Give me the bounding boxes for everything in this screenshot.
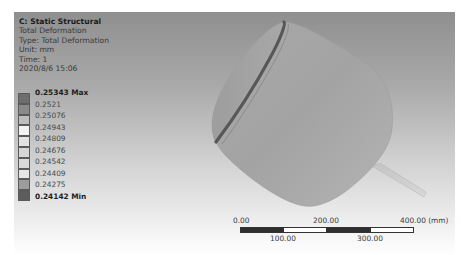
scale-tick-200: 200.00 bbox=[313, 216, 339, 225]
scale-tick-0: 0.00 bbox=[233, 216, 249, 225]
scale-bar: 0.00 200.00 400.00 (mm) 100.00 300.00 bbox=[0, 0, 465, 255]
scale-tick-100: 100.00 bbox=[270, 234, 296, 243]
scale-segment-dark bbox=[326, 227, 371, 233]
scale-tick-300: 300.00 bbox=[357, 234, 383, 243]
scale-segment-light bbox=[283, 227, 327, 233]
scale-segment-light bbox=[370, 227, 414, 233]
scale-segment-dark bbox=[240, 227, 284, 233]
scale-tick-400: 400.00 (mm) bbox=[400, 216, 448, 225]
